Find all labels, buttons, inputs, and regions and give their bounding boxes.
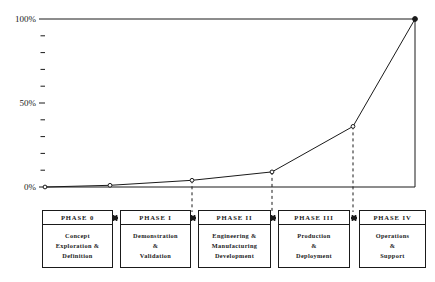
phase-box-4-desc-line-3: Support	[380, 251, 405, 261]
y-axis-label-50: 50%	[20, 98, 37, 108]
phase-box-1-desc-line-2: &	[153, 241, 159, 251]
phase-box-0-desc-line-2: Exploration &	[56, 241, 100, 251]
phase-box-2-description: Engineering & Manufacturing Development	[199, 225, 270, 267]
phase-box-3[interactable]: PHASE III Production & Deployment	[278, 210, 350, 268]
phase-box-2-desc-line-1: Engineering &	[212, 231, 256, 241]
phase-box-4-title: PHASE IV	[360, 211, 425, 225]
phase-box-1[interactable]: PHASE I Demonstration & Validation	[120, 210, 191, 268]
phase-box-4[interactable]: PHASE IV Operations & Support	[359, 210, 426, 268]
data-point-5	[413, 17, 418, 22]
phase-box-3-desc-line-2: &	[311, 241, 317, 251]
y-axis-label-100: 100%	[15, 14, 37, 24]
data-point-2	[190, 178, 194, 182]
data-point-4	[351, 125, 355, 129]
phase-box-3-description: Production & Deployment	[279, 225, 349, 267]
phase-box-0-desc-line-3: Definition	[62, 251, 92, 261]
phase-box-1-desc-line-1: Demonstration	[133, 231, 178, 241]
phase-box-4-description: Operations & Support	[360, 225, 425, 267]
curve-data-markers	[43, 17, 417, 189]
phase-box-3-desc-line-1: Production	[297, 231, 330, 241]
phase-box-4-desc-line-1: Operations	[376, 231, 410, 241]
phase-box-1-desc-line-3: Validation	[140, 251, 171, 261]
phase-box-2-desc-line-3: Development	[215, 251, 254, 261]
phase-box-2[interactable]: PHASE II Engineering & Manufacturing Dev…	[198, 210, 271, 268]
phase-box-0-title: PHASE 0	[43, 211, 112, 225]
phase-box-1-description: Demonstration & Validation	[121, 225, 190, 267]
phase-box-0-desc-line-1: Concept	[65, 231, 90, 241]
y-axis-label-0: 0%	[24, 182, 37, 192]
phase-box-0[interactable]: PHASE 0 Concept Exploration & Definition	[42, 210, 113, 268]
cost-commitment-curve	[45, 19, 415, 187]
data-point-3	[270, 170, 274, 174]
phase-box-3-desc-line-3: Deployment	[296, 251, 332, 261]
milestone-cost-commitment-figure: 100% 50% 0%	[0, 0, 435, 282]
phase-box-2-title: PHASE II	[199, 211, 270, 225]
data-point-1	[108, 183, 112, 187]
boundary-drop-lines	[192, 126, 353, 212]
data-point-0	[43, 185, 47, 189]
phase-connector-3-4	[351, 215, 357, 220]
phase-box-3-title: PHASE III	[279, 211, 349, 225]
phase-box-4-desc-line-2: &	[390, 241, 396, 251]
y-axis-ticks	[39, 19, 45, 187]
plot-frame	[45, 19, 415, 187]
phase-box-1-title: PHASE I	[121, 211, 190, 225]
phase-box-2-desc-line-2: Manufacturing	[212, 241, 257, 251]
phase-box-0-description: Concept Exploration & Definition	[43, 225, 112, 267]
